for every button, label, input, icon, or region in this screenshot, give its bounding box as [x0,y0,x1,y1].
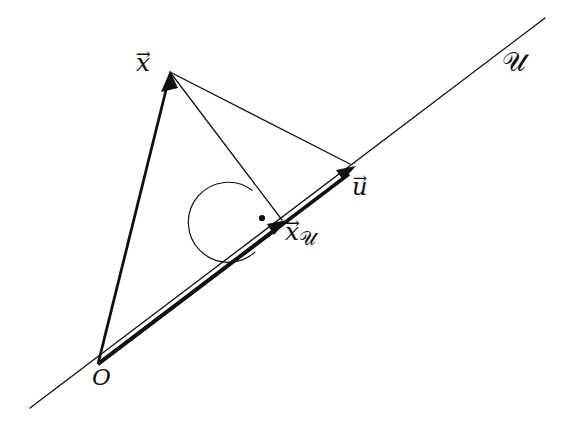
right-angle-dot [259,215,265,221]
label-vector-x-projection-subscript: 𝒰 [299,228,316,249]
segment-x-to-projection [170,72,282,220]
label-vector-x-projection: → x 𝒰 [285,219,316,249]
label-vector-u: → u [352,175,367,199]
label-vector-x: → x [136,50,150,75]
segment-x-to-u [170,72,350,164]
vector-arrow-accent-x-projection: → [285,214,300,232]
vector-arrow-accent-u: → [353,170,367,187]
projection-diagram: → x → u → x 𝒰 O 𝒰 [0,0,562,428]
label-origin: O [92,366,111,389]
diagram-canvas [0,0,562,428]
label-subspace-U: 𝒰 [502,48,526,75]
vector-arrow-accent-x: → [136,45,151,63]
vector-O-to-x [98,71,178,364]
